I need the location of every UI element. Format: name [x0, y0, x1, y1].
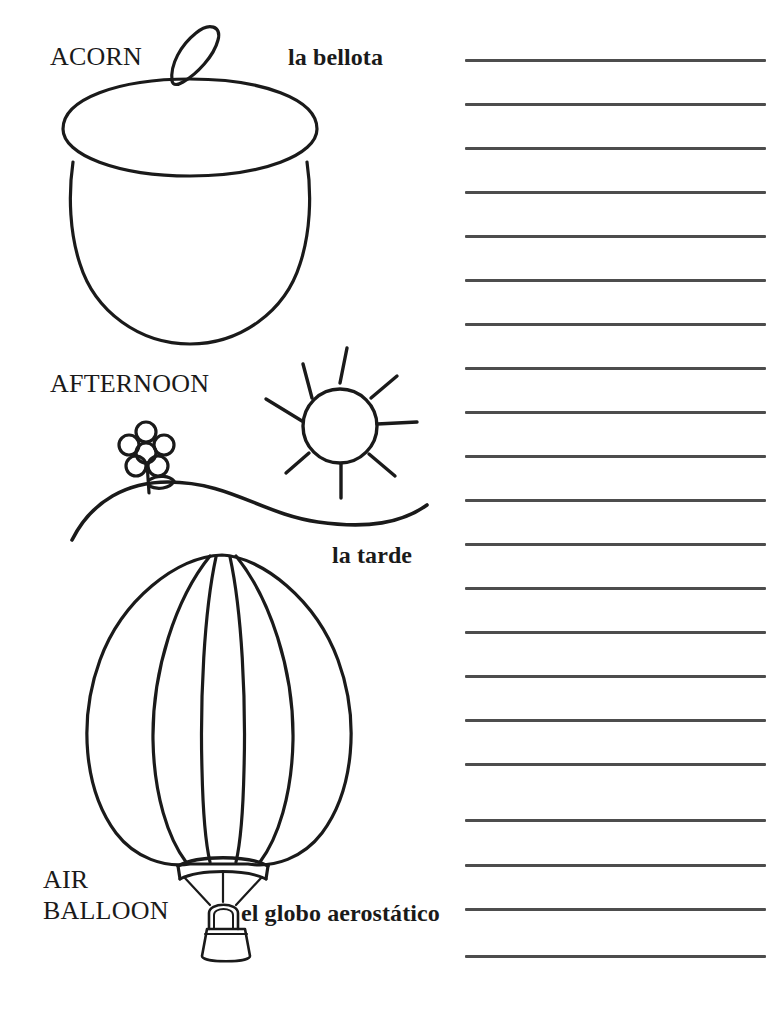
word-label-spanish-afternoon: la tarde	[332, 543, 412, 569]
writing-lines-area	[0, 0, 779, 1011]
writing-line	[465, 587, 766, 590]
writing-line	[465, 411, 766, 414]
word-label-english-acorn: ACORN	[50, 43, 142, 71]
writing-line	[465, 59, 766, 62]
writing-line	[465, 631, 766, 634]
writing-line	[465, 499, 766, 502]
writing-line	[465, 191, 766, 194]
writing-line	[465, 675, 766, 678]
word-label-english-air-balloon-line1: AIR	[43, 866, 88, 894]
writing-line	[465, 103, 766, 106]
writing-line	[465, 147, 766, 150]
writing-line	[465, 908, 766, 911]
writing-line	[465, 323, 766, 326]
writing-line	[465, 719, 766, 722]
writing-line	[465, 864, 766, 867]
writing-line	[465, 279, 766, 282]
worksheet-page: ACORN la bellota AFTERNOON la tarde AIR …	[0, 0, 779, 1011]
writing-line	[465, 763, 766, 766]
word-label-spanish-air-balloon: el globo aerostático	[241, 901, 440, 927]
writing-line	[465, 367, 766, 370]
writing-line	[465, 955, 766, 958]
word-label-english-afternoon: AFTERNOON	[50, 370, 209, 398]
word-label-english-air-balloon-line2: BALLOON	[43, 897, 169, 925]
writing-line	[465, 819, 766, 822]
writing-line	[465, 543, 766, 546]
writing-line	[465, 455, 766, 458]
writing-line	[465, 235, 766, 238]
word-label-spanish-acorn: la bellota	[288, 45, 383, 71]
